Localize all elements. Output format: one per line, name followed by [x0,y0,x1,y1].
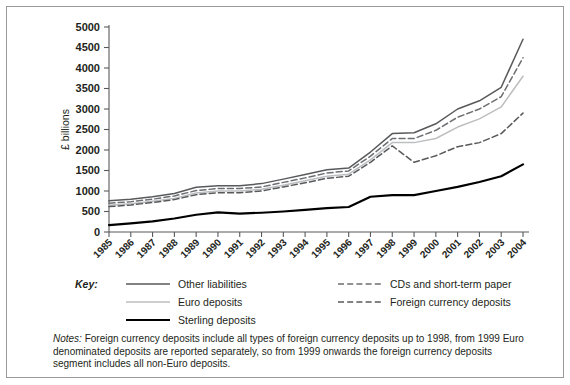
legend-entry: Other liabilities [125,275,247,292]
legend-line-sample [337,297,383,307]
legend-key-label: Key: [75,278,98,290]
series-line [109,39,523,201]
legend-line-sample [337,279,383,289]
y-tick-label: 0 [94,226,100,238]
x-tick-label: 1993 [265,236,289,260]
legend-label: Foreign currency deposits [390,296,511,308]
x-tick-label: 1998 [374,236,398,260]
notes-label: Notes: [53,333,82,344]
x-tick-label: 2002 [461,236,485,260]
legend-entry: Euro deposits [125,293,242,310]
chart-legend: Key: Other liabilitiesCDs and short-term… [7,275,565,331]
chart-plot-area: 0500100015002000250030003500400045005000… [7,7,565,275]
x-tick-label: 1992 [243,236,267,260]
y-tick-label: 1000 [76,185,100,197]
x-tick-label: 1994 [287,236,311,260]
x-tick-label: 1987 [134,236,158,260]
x-tick-label: 1997 [352,236,376,260]
line-chart: 0500100015002000250030003500400045005000… [7,7,565,275]
legend-label: Other liabilities [178,278,247,290]
y-tick-label: 4500 [76,41,100,53]
legend-line-sample [125,315,171,325]
x-tick-label: 1999 [396,236,420,260]
legend-entry: Sterling deposits [125,311,256,328]
x-tick-label: 1995 [309,236,333,260]
x-tick-label: 2004 [505,236,529,260]
series-line [109,113,523,206]
y-tick-label: 3000 [76,103,100,115]
y-tick-label: 5000 [76,21,100,33]
y-tick-label: 3500 [76,82,100,94]
legend-line-sample [125,297,171,307]
x-tick-label: 1991 [222,236,246,260]
legend-label: Sterling deposits [178,314,256,326]
chart-notes: Notes: Foreign currency deposits include… [53,333,529,371]
legend-label: CDs and short-term paper [390,278,511,290]
x-tick-label: 2003 [483,236,507,260]
y-tick-label: 4000 [76,62,100,74]
x-tick-label: 1988 [156,236,180,260]
x-tick-label: 2001 [440,236,464,260]
x-tick-label: 1989 [178,236,202,260]
figure-frame: 0500100015002000250030003500400045005000… [6,6,564,378]
y-tick-label: 2500 [76,123,100,135]
y-tick-label: 1500 [76,164,100,176]
figure-container: 0500100015002000250030003500400045005000… [0,0,570,385]
y-axis-title: £ billions [59,109,71,150]
legend-entry: Foreign currency deposits [337,293,511,310]
series-line [109,58,523,204]
x-tick-label: 1985 [91,236,115,260]
x-tick-label: 1986 [113,236,137,260]
y-tick-label: 2000 [76,144,100,156]
legend-line-sample [125,279,171,289]
notes-text: Foreign currency deposits include all ty… [53,333,524,369]
legend-label: Euro deposits [178,296,242,308]
x-tick-label: 2000 [418,236,442,260]
x-tick-label: 1996 [331,236,355,260]
y-tick-label: 500 [82,205,100,217]
x-tick-label: 1990 [200,236,224,260]
legend-entry: CDs and short-term paper [337,275,511,292]
